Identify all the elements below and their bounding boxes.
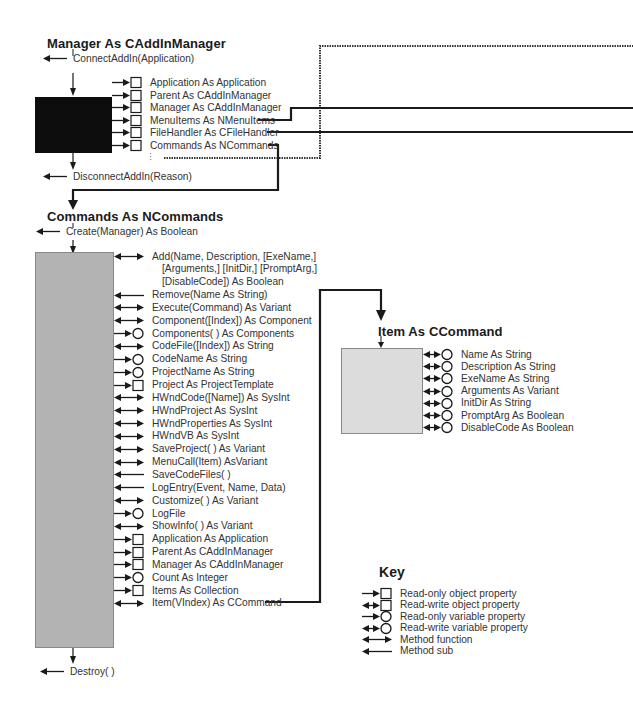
manager-title: Manager As CAddInManager xyxy=(47,36,226,51)
connect-addin-label: ConnectAddIn(Application) xyxy=(73,53,194,65)
member-label: Application As Application xyxy=(152,533,268,545)
commands-member[interactable]: MenuCall(Item) AsVariant xyxy=(114,456,267,469)
commands-member[interactable]: CodeFile([Index]) As String xyxy=(114,340,274,353)
member-label: CodeFile([Index]) As String xyxy=(152,340,274,352)
connect-addin-sub: ConnectAddIn(Application) xyxy=(43,52,194,65)
read-write-variable-icon xyxy=(423,372,457,385)
member-label: HWndProperties As SysInt xyxy=(152,418,272,430)
method-function-icon xyxy=(114,456,148,469)
destroy-sub: Destroy( ) xyxy=(40,665,115,678)
method-function-icon xyxy=(114,597,148,610)
read-only-object-icon xyxy=(112,126,146,139)
item-member[interactable]: DisableCode As Boolean xyxy=(423,421,574,434)
commands-member[interactable]: Components( ) As Components xyxy=(114,327,294,340)
commands-member[interactable]: HWndProject As SysInt xyxy=(114,404,257,417)
method-sub-icon xyxy=(114,468,148,481)
member-label: CodeName As String xyxy=(152,353,247,365)
commands-member[interactable]: ShowInfo( ) As Variant xyxy=(114,520,253,533)
read-write-variable-icon xyxy=(423,360,457,373)
item-member[interactable]: Name As String xyxy=(423,348,532,361)
disconnect-addin-label: DisconnectAddIn(Reason) xyxy=(73,171,192,183)
item-member[interactable]: ExeName As String xyxy=(423,372,549,385)
member-label: Parent As CAddInManager xyxy=(152,546,273,558)
key-entry[interactable]: Method sub xyxy=(362,645,453,658)
commands-member[interactable]: SaveProject( ) As Variant xyxy=(114,443,265,456)
member-label: Arguments As Variant xyxy=(461,385,559,397)
item-member[interactable]: PromptArg As Boolean xyxy=(423,409,564,422)
method-sub-icon xyxy=(114,289,148,302)
item-member[interactable]: Description As String xyxy=(423,360,556,373)
method-function-icon xyxy=(114,391,148,404)
commands-member: [Arguments,] [InitDir,] [PromptArg,] xyxy=(114,263,317,276)
method-function-icon xyxy=(114,520,148,533)
item-member[interactable]: InitDir As String xyxy=(423,397,531,410)
member-label: ShowInfo( ) As Variant xyxy=(152,520,253,532)
member-label: Manager As CAddInManager xyxy=(150,102,281,114)
commands-member[interactable]: Component([Index]) As Component xyxy=(114,314,312,327)
member-label: Component([Index]) As Component xyxy=(152,315,312,327)
member-label: FileHandler As CFileHandler xyxy=(150,127,279,139)
commands-member: [DisableCode]) As Boolean xyxy=(114,276,284,289)
read-write-variable-icon xyxy=(423,385,457,398)
commands-member[interactable]: Item(VIndex) As CCommand xyxy=(114,597,282,610)
item-box[interactable] xyxy=(341,348,423,434)
read-only-object-icon xyxy=(114,558,148,571)
method-function-icon xyxy=(114,417,148,430)
member-label: Item(VIndex) As CCommand xyxy=(152,597,282,609)
manager-member[interactable]: Manager As CAddInManager xyxy=(112,101,281,114)
commands-member[interactable]: Customize( ) As Variant xyxy=(114,494,258,507)
commands-member[interactable]: SaveCodeFiles( ) xyxy=(114,468,231,481)
item-member[interactable]: Arguments As Variant xyxy=(423,385,559,398)
method-function-icon xyxy=(114,494,148,507)
member-label: PromptArg As Boolean xyxy=(461,410,564,422)
method-sub-icon xyxy=(43,52,69,65)
read-only-variable-icon xyxy=(114,571,148,584)
member-label: Method sub xyxy=(400,645,453,657)
method-sub-icon xyxy=(362,645,396,658)
create-sub: Create(Manager) As Boolean xyxy=(36,225,198,238)
member-label: SaveProject( ) As Variant xyxy=(152,443,265,455)
read-only-variable-icon xyxy=(114,366,148,379)
commands-member[interactable]: Project As ProjectTemplate xyxy=(114,379,274,392)
commands-member[interactable]: Remove(Name As String) xyxy=(114,289,268,302)
continuation-spacer xyxy=(114,263,158,276)
commands-member[interactable]: Add(Name, Description, [ExeName,] xyxy=(114,250,316,263)
manager-box[interactable] xyxy=(35,97,112,153)
member-label: DisableCode As Boolean xyxy=(461,422,574,434)
commands-member[interactable]: Application As Application xyxy=(114,533,268,546)
member-label: Items As Collection xyxy=(152,585,239,597)
read-only-object-icon xyxy=(114,546,148,559)
member-label: HWndVB As SysInt xyxy=(152,430,239,442)
member-label: InitDir As String xyxy=(461,397,531,409)
commands-member[interactable]: Items As Collection xyxy=(114,584,239,597)
method-function-icon xyxy=(114,443,148,456)
destroy-label: Destroy( ) xyxy=(70,666,115,678)
commands-member[interactable]: ProjectName As String xyxy=(114,366,254,379)
method-function-icon xyxy=(114,301,148,314)
key-title: Key xyxy=(379,564,405,580)
commands-member[interactable]: LogFile xyxy=(114,507,185,520)
commands-member[interactable]: LogEntry(Event, Name, Data) xyxy=(114,481,286,494)
method-function-icon xyxy=(114,314,148,327)
commands-member[interactable]: HWndCode([Name]) As SysInt xyxy=(114,391,290,404)
commands-member[interactable]: Parent As CAddInManager xyxy=(114,546,273,559)
commands-member[interactable]: Execute(Command) As Variant xyxy=(114,301,291,314)
commands-member[interactable]: HWndProperties As SysInt xyxy=(114,417,272,430)
commands-member[interactable]: CodeName As String xyxy=(114,353,247,366)
commands-box[interactable] xyxy=(35,252,114,648)
member-label: HWndProject As SysInt xyxy=(152,405,257,417)
manager-member[interactable]: Commands As NCommands xyxy=(112,139,279,152)
member-label: Remove(Name As String) xyxy=(152,289,268,301)
method-function-icon xyxy=(114,340,148,353)
member-label: [DisableCode]) As Boolean xyxy=(162,276,284,288)
manager-member[interactable]: FileHandler As CFileHandler xyxy=(112,126,279,139)
commands-member[interactable]: HWndVB As SysInt xyxy=(114,430,239,443)
manager-member[interactable]: Application As Application xyxy=(112,76,266,89)
member-label: [Arguments,] [InitDir,] [PromptArg,] xyxy=(162,263,317,275)
commands-member[interactable]: Manager As CAddInManager xyxy=(114,558,283,571)
member-label: LogEntry(Event, Name, Data) xyxy=(152,482,286,494)
commands-member[interactable]: Count As Integer xyxy=(114,571,228,584)
member-label: MenuItems As NMenuItems xyxy=(150,115,275,127)
read-write-variable-icon xyxy=(423,421,457,434)
read-only-variable-icon xyxy=(114,353,148,366)
